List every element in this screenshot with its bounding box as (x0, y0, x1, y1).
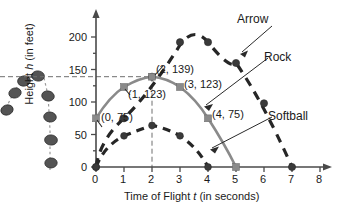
y-axis-title: Height h (in feet) (23, 9, 35, 119)
y-axis-title-variable: h (23, 64, 35, 70)
series-label-rock: Rock (264, 50, 291, 64)
x-axis-title: Time of Flight t (in seconds) (124, 190, 259, 202)
leader-softball (212, 117, 272, 148)
leader-arrowhead-arrow (240, 51, 248, 58)
x-tick-2: 2 (148, 173, 154, 185)
x-tick-6: 6 (260, 173, 266, 185)
x-tick-7: 7 (288, 173, 294, 185)
point-label-2-139: (2, 139) (156, 63, 194, 75)
series-label-arrow: Arrow (237, 12, 268, 26)
y-axis-title-post: (in feet) (23, 23, 35, 63)
x-axis-title-post: (in seconds) (196, 190, 259, 202)
x-tick-5: 5 (232, 173, 238, 185)
point-label-0-75: (0, 75) (101, 111, 133, 123)
x-tick-8: 8 (316, 173, 322, 185)
x-tick-1: 1 (120, 173, 126, 185)
x-tick-0: 0 (92, 173, 98, 185)
leader-arrowhead-softball (210, 147, 219, 154)
x-tick-4: 4 (204, 173, 210, 185)
x-axis-arrowhead (323, 163, 332, 170)
point-label-1-123: (1, 123) (128, 88, 166, 100)
y-tick-0: 0 (55, 161, 87, 173)
y-axis-arrowhead (92, 9, 99, 18)
y-tick-150: 150 (55, 64, 87, 76)
y-tick-200: 200 (55, 31, 87, 43)
chart-figure: 200 150 100 50 0 0 1 2 3 4 5 6 7 8 Time … (0, 0, 341, 208)
point-label-4-75: (4, 75) (212, 108, 244, 120)
y-axis-title-pre: Height (23, 70, 35, 105)
x-tick-3: 3 (176, 173, 182, 185)
y-tick-100: 100 (55, 96, 87, 108)
leader-arrow (242, 26, 272, 52)
point-label-3-123: (3, 123) (184, 78, 222, 90)
series-label-softball: Softball (268, 109, 308, 123)
x-axis-title-pre: Time of Flight (124, 190, 193, 202)
y-tick-50: 50 (55, 129, 87, 141)
